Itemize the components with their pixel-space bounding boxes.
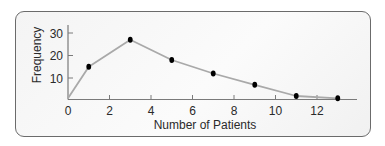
x-tick-label: 2 — [106, 104, 113, 118]
frequency-line — [68, 40, 338, 99]
data-point-marker — [335, 95, 340, 101]
frequency-polygon-chart: 102030024681012 Number of Patients Frequ… — [0, 0, 385, 146]
x-tick-label: 8 — [231, 104, 238, 118]
y-axis-title: Frequency — [30, 27, 44, 84]
x-tick-label: 0 — [65, 104, 72, 118]
data-point-marker — [86, 64, 91, 70]
data-point-marker — [252, 82, 257, 88]
data-series — [68, 37, 340, 102]
y-tick-label: 10 — [50, 72, 64, 86]
y-tick-label: 30 — [50, 27, 64, 41]
x-axis-title: Number of Patients — [154, 118, 257, 132]
data-point-marker — [294, 93, 299, 99]
y-tick-label: 20 — [50, 49, 64, 63]
data-point-marker — [169, 57, 174, 63]
data-point-marker — [128, 37, 133, 43]
x-tick-label: 12 — [310, 104, 324, 118]
x-tick-label: 6 — [189, 104, 196, 118]
data-point-marker — [211, 71, 216, 77]
x-tick-label: 10 — [269, 104, 283, 118]
axes: 102030024681012 — [50, 25, 357, 118]
x-tick-label: 4 — [148, 104, 155, 118]
